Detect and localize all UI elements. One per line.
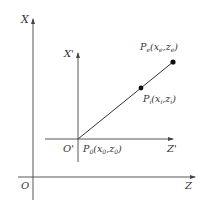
local-x-label: X'	[63, 48, 74, 59]
svg-text:P0(x0,z0): P0(x0,z0)	[82, 143, 122, 155]
main-x-label: X	[20, 13, 30, 26]
local-origin-label: O'	[63, 143, 74, 154]
point-pi-label: Pi(xi,zi)	[142, 93, 176, 105]
point-pe-label: Pe(xe,ze)	[139, 41, 178, 53]
local-z-label: Z'	[166, 143, 177, 154]
point-pe-marker	[170, 59, 175, 64]
point-pi-marker	[139, 86, 144, 91]
point-p0-label: P0(x0,z0)	[82, 143, 122, 155]
svg-text:Pi(xi,zi): Pi(xi,zi)	[142, 93, 176, 105]
svg-text:Pe(xe,ze): Pe(xe,ze)	[139, 41, 178, 53]
origin-label: O	[21, 180, 29, 191]
coordinate-diagram: X Z O X' Z' O' P0(x0,z0) Pi(xi,zi) Pe(xe…	[0, 0, 204, 208]
main-z-label: Z	[184, 180, 193, 191]
